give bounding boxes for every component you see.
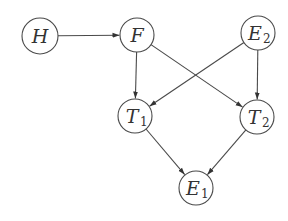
bayesian-network-diagram: HFE2T1T2E1	[0, 0, 288, 221]
node-label: T	[248, 106, 262, 128]
edge-e2-to-t1	[150, 43, 244, 107]
edge-f-to-t2	[151, 45, 243, 108]
edge-f-to-t1	[135, 52, 136, 99]
node-t2: T2	[240, 100, 274, 134]
node-e2: E2	[241, 16, 275, 50]
edge-t1-to-e1	[146, 129, 185, 175]
node-e1: E1	[179, 171, 213, 205]
node-h: H	[22, 18, 58, 54]
node-label: E	[247, 22, 262, 44]
edge-t2-to-e1	[207, 130, 246, 175]
node-label: E	[185, 177, 200, 199]
node-label: T	[126, 105, 140, 127]
node-label: F	[129, 24, 144, 46]
edge-h-to-f	[58, 35, 120, 36]
node-subscript: 1	[140, 115, 148, 129]
node-subscript: 1	[201, 187, 209, 201]
node-label: H	[31, 25, 49, 47]
node-t1: T1	[118, 99, 152, 133]
nodes: HFE2T1T2E1	[22, 16, 275, 205]
edge-e2-to-t2	[257, 50, 258, 100]
edges	[58, 35, 258, 175]
node-subscript: 2	[262, 116, 270, 130]
node-subscript: 2	[263, 32, 271, 46]
node-f: F	[120, 18, 154, 52]
